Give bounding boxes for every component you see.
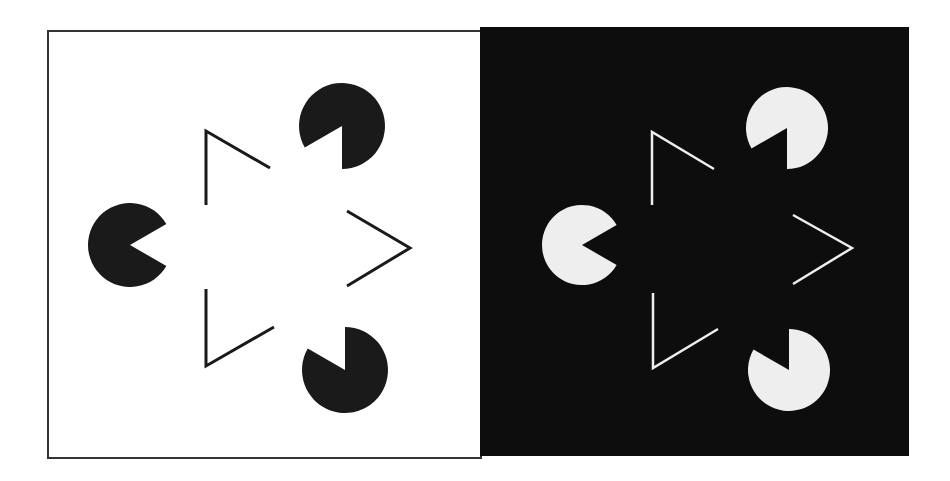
- kanizsa-figure: [0, 0, 950, 481]
- light-panel: [48, 31, 481, 458]
- dark-panel: [481, 28, 908, 455]
